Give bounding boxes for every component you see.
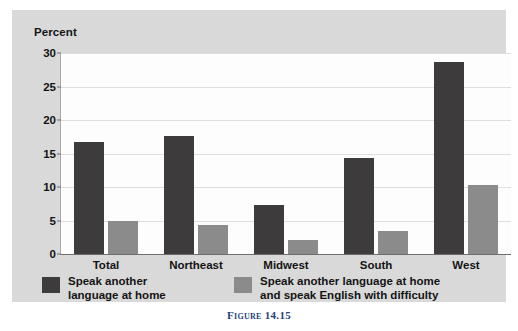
y-axis-tick-label: 25 bbox=[43, 81, 56, 93]
y-axis-title: Percent bbox=[34, 26, 77, 38]
x-axis-label: Total bbox=[93, 259, 120, 271]
x-axis-label: Midwest bbox=[263, 259, 308, 271]
y-axis-tick-label: 20 bbox=[43, 114, 56, 126]
x-axis-label: Northeast bbox=[169, 259, 223, 271]
gridline bbox=[61, 53, 511, 54]
x-axis-label: South bbox=[360, 259, 393, 271]
bar bbox=[434, 62, 464, 254]
bar bbox=[108, 221, 138, 255]
legend-swatch-icon bbox=[42, 277, 60, 293]
bar bbox=[74, 142, 104, 254]
bar bbox=[468, 185, 498, 254]
y-axis-tick-label: 10 bbox=[43, 181, 56, 193]
y-axis-tick-mark bbox=[57, 120, 61, 121]
y-axis-tick-mark bbox=[57, 220, 61, 221]
y-axis-tick-mark bbox=[57, 187, 61, 188]
bar bbox=[254, 205, 284, 254]
y-axis-tick-mark bbox=[57, 86, 61, 87]
legend-entry: Speak another language at home and speak… bbox=[234, 275, 440, 302]
bar bbox=[344, 158, 374, 254]
legend-swatch-icon bbox=[234, 277, 252, 293]
chart-panel: Percent 051015202530 TotalNortheastMidwe… bbox=[12, 10, 506, 302]
chart-legend: Speak another language at homeSpeak anot… bbox=[42, 275, 502, 305]
y-axis-tick-mark bbox=[57, 53, 61, 54]
y-axis-tick-mark bbox=[57, 153, 61, 154]
legend-label: Speak another language at home bbox=[68, 275, 166, 302]
plot-inner: 051015202530 TotalNortheastMidwestSouthW… bbox=[61, 53, 511, 254]
figure-container: Percent 051015202530 TotalNortheastMidwe… bbox=[0, 0, 518, 331]
plot-area: 051015202530 TotalNortheastMidwestSouthW… bbox=[60, 53, 511, 255]
y-axis-tick-label: 30 bbox=[43, 47, 56, 59]
x-axis-label: West bbox=[452, 259, 479, 271]
bar bbox=[288, 240, 318, 254]
y-axis-tick-label: 0 bbox=[50, 248, 56, 260]
y-axis-tick-label: 5 bbox=[50, 215, 56, 227]
y-axis-tick-mark bbox=[57, 254, 61, 255]
legend-label: Speak another language at home and speak… bbox=[260, 275, 440, 302]
bar bbox=[378, 231, 408, 254]
bar bbox=[164, 136, 194, 254]
bar bbox=[198, 225, 228, 254]
figure-caption: Figure 14.15 bbox=[0, 309, 518, 321]
legend-entry: Speak another language at home bbox=[42, 275, 166, 302]
y-axis-tick-label: 15 bbox=[43, 148, 56, 160]
